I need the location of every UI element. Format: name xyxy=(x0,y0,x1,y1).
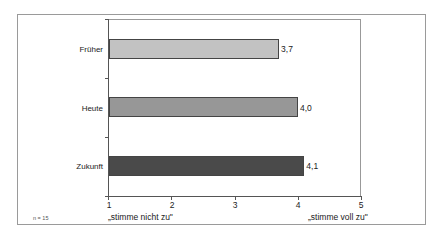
bar-heute xyxy=(109,97,298,117)
value-label-heute: 4,0 xyxy=(300,103,312,113)
x-tick-label: 2 xyxy=(170,200,175,210)
x-tick-label: 4 xyxy=(296,200,301,210)
bar-zukunft xyxy=(109,156,304,176)
category-label-heute: Heute xyxy=(82,104,103,113)
category-label-frueher: Früher xyxy=(79,45,103,54)
x-anchor-high: „stimme voll zu" xyxy=(308,212,368,222)
x-tick-label: 3 xyxy=(233,200,238,210)
x-anchor-low: „stimme nicht zu" xyxy=(108,212,173,222)
x-tick-label: 5 xyxy=(359,200,364,210)
y-tick xyxy=(105,19,109,20)
bar-frueher xyxy=(109,39,279,59)
value-label-frueher: 3,7 xyxy=(281,44,293,54)
value-label-zukunft: 4,1 xyxy=(306,161,318,171)
x-tick-label: 1 xyxy=(107,200,112,210)
category-label-zukunft: Zukunft xyxy=(76,162,103,171)
sample-size-note: n = 15 xyxy=(33,215,48,221)
y-tick xyxy=(105,137,109,138)
y-tick xyxy=(105,78,109,79)
